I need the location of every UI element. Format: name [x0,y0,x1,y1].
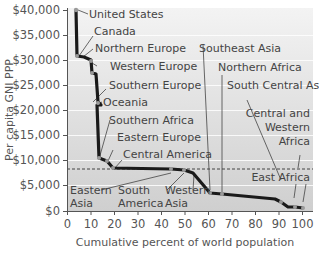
svg-text:$5,000: $5,000 [20,178,60,192]
svg-text:50: 50 [178,217,193,231]
label-south-central-asia: South Central Asia [227,79,319,92]
y-axis-title: Per capita GNI PPP [3,59,16,161]
svg-text:$0: $0 [45,204,60,218]
label-eastern-asia: Eastern [70,184,112,197]
label-south-america-2: America [118,197,163,210]
label-northern-europe: Northern Europe [95,42,186,55]
y-tick-labels: $40,000 $35,000 $30,000 $25,000 $20,000 … [12,3,60,218]
label-western-asia-2: Asia [165,197,188,210]
label-eastern-asia-2: Asia [70,197,93,210]
svg-text:60: 60 [201,217,216,231]
svg-text:80: 80 [248,217,263,231]
svg-text:$30,000: $30,000 [12,53,60,67]
label-oceania: Oceania [103,96,148,109]
svg-text:40: 40 [154,217,169,231]
label-central-western-africa-2: Western [265,121,310,134]
x-axis-title: Cumulative percent of world population [76,236,294,249]
label-east-africa: East Africa [251,171,310,184]
svg-text:$35,000: $35,000 [12,28,60,42]
label-central-western-africa-3: Africa [279,135,310,148]
label-united-states: United States [89,8,164,21]
label-northern-africa: Northern Africa [218,61,302,74]
svg-text:10: 10 [84,217,99,231]
label-south-america: South [118,184,150,197]
label-western-europe: Western Europe [110,60,198,73]
label-central-western-africa: Central and [246,107,310,120]
label-southern-africa: Southern Africa [109,114,194,127]
svg-text:$25,000: $25,000 [12,78,60,92]
svg-text:$20,000: $20,000 [12,103,60,117]
label-central-america: Central America [123,148,212,161]
svg-text:30: 30 [131,217,146,231]
svg-text:$15,000: $15,000 [12,128,60,142]
svg-text:70: 70 [225,217,240,231]
chart: $40,000 $35,000 $30,000 $25,000 $20,000 … [0,0,319,254]
svg-text:$10,000: $10,000 [12,153,60,167]
label-southeast-asia: Southeast Asia [199,42,281,55]
label-southern-europe: Southern Europe [109,79,201,92]
label-eastern-europe: Eastern Europe [117,131,201,144]
svg-text:$40,000: $40,000 [12,3,60,17]
svg-text:20: 20 [107,217,122,231]
x-tick-labels: 0 10 20 30 40 50 60 70 80 90 100 [64,217,314,231]
label-canada: Canada [94,25,136,38]
svg-text:0: 0 [64,217,71,231]
svg-text:100: 100 [292,217,314,231]
svg-text:90: 90 [272,217,287,231]
label-western-asia: Western [165,184,210,197]
